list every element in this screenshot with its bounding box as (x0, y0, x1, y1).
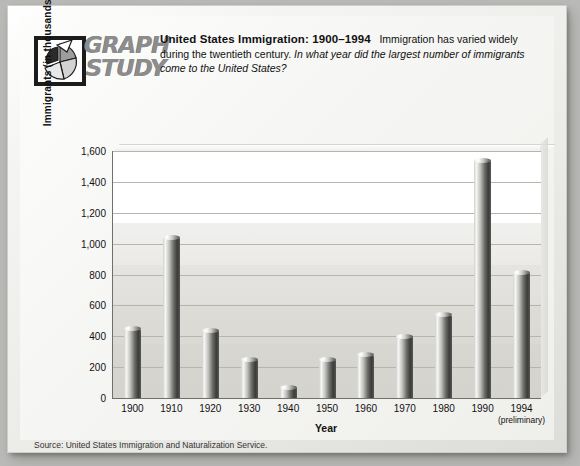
bar-cap (124, 326, 141, 331)
bar-1930 (241, 359, 258, 398)
y-tick-label: 1,600 (81, 146, 106, 157)
bar-1900 (124, 329, 141, 398)
bar-1970 (396, 336, 413, 398)
header-text-block: United States Immigration: 1900–1994 Imm… (160, 32, 546, 76)
logo-line-study: STUDY (86, 57, 166, 80)
card-inner-panel: GRAPH STUDY United States Immigration: 1… (20, 16, 554, 440)
logo-line-graph: GRAPH (84, 34, 170, 57)
x-tick-label: 1970 (394, 403, 416, 414)
bar-cap (163, 235, 180, 240)
x-tick-label: 1990 (472, 403, 494, 414)
x-tick-label: 1920 (199, 403, 221, 414)
y-tick-label: 1,200 (81, 207, 106, 218)
y-tick-label: 600 (89, 300, 106, 311)
y-tick-label: 1,400 (81, 176, 106, 187)
gridline (113, 151, 541, 152)
header: GRAPH STUDY United States Immigration: 1… (34, 32, 546, 98)
bar-1910 (163, 237, 180, 398)
plot-side-bevel (540, 137, 548, 398)
y-axis-label: Immigrants (in thousands) (42, 0, 56, 166)
bar-1980 (435, 315, 452, 398)
x-tick-label: 1960 (355, 403, 377, 414)
plot-area: 02004006008001,0001,2001,4001,600 190019… (112, 151, 541, 399)
x-tick-label: 1940 (277, 403, 299, 414)
x-axis-label: Year (112, 422, 540, 434)
x-tick-label: 1900 (121, 403, 143, 414)
bar-1990 (474, 160, 491, 398)
y-tick-label: 200 (89, 362, 106, 373)
bar-cap (241, 357, 258, 362)
bar-1950 (319, 359, 336, 398)
bar-cap (474, 158, 491, 163)
x-tick-label: 1930 (238, 403, 260, 414)
x-tick-label: 1910 (160, 403, 182, 414)
y-tick-label: 1,000 (81, 238, 106, 249)
graph-study-card: GRAPH STUDY United States Immigration: 1… (8, 6, 566, 452)
y-tick-label: 0 (100, 393, 106, 404)
bar-1960 (357, 355, 374, 398)
x-tick-label: 1980 (433, 403, 455, 414)
bar-cap (357, 352, 374, 357)
bar-cap (396, 334, 413, 339)
bar-1940 (280, 387, 297, 398)
bar-1994 (513, 272, 530, 398)
bar-cap (319, 357, 336, 362)
bar-cap (513, 270, 530, 275)
page-title: United States Immigration: 1900–1994 (160, 33, 371, 45)
x-tick-label: 1950 (316, 403, 338, 414)
bar-cap (202, 328, 219, 333)
bar-1920 (202, 330, 219, 398)
source-note: Source: United States Immigration and Na… (34, 440, 267, 450)
logo-wordmark: GRAPH STUDY (84, 32, 158, 92)
bar-cap (280, 385, 297, 390)
y-tick-label: 400 (89, 331, 106, 342)
bar-cap (435, 312, 452, 317)
y-tick-label: 800 (89, 269, 106, 280)
